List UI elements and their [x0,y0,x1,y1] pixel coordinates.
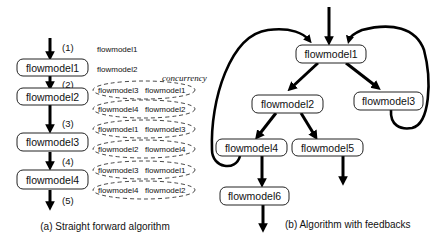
svg-text:flowmodel4: flowmodel4 [98,105,139,114]
step-label-1: (1) [62,42,74,53]
edge-2-4 [258,113,276,136]
svg-text:flowmodel1: flowmodel1 [26,62,79,74]
svg-text:flowmodel2: flowmodel2 [145,105,186,114]
box-a-flowmodel2: flowmodel2 [17,88,88,105]
svg-text:flowmodel3: flowmodel3 [98,166,139,175]
svg-text:flowmodel6: flowmodel6 [228,190,281,202]
edge-1-3 [346,63,377,87]
node-flowmodel4: flowmodel4 [216,139,287,156]
concurrent-pair-3: flowmodel1 flowmodel3 [93,120,195,138]
edge-1-2 [291,63,318,88]
svg-text:flowmodel1: flowmodel1 [304,48,357,60]
concurrent-pair-2: flowmodel4 flowmodel2 [93,100,195,118]
concurrent-pair-4: flowmodel2 flowmodel4 [93,140,195,158]
caption-b: (b) Algorithm with feedbacks [285,219,411,230]
box-a-flowmodel4: flowmodel4 [17,170,88,189]
node-flowmodel2: flowmodel2 [252,95,323,113]
concurrent-pair-6: flowmodel4 flowmodel2 [93,181,195,199]
svg-text:flowmodel4: flowmodel4 [98,186,139,195]
svg-text:flowmodel4: flowmodel4 [26,174,79,186]
node-flowmodel6: flowmodel6 [220,187,289,205]
svg-text:flowmodel2: flowmodel2 [98,145,139,154]
concurrency-label: concurrency [162,73,207,83]
svg-text:flowmodel1: flowmodel1 [145,86,186,95]
svg-text:flowmodel3: flowmodel3 [145,125,186,134]
caption-a: (a) Straight forward algorithm [40,221,170,232]
concurrent-pair-1: flowmodel3 flowmodel1 [93,81,195,99]
node-flowmodel5: flowmodel5 [292,139,363,156]
svg-text:flowmodel1: flowmodel1 [145,166,186,175]
feedback-3-to-1 [349,27,428,129]
panel-a-straight-forward: (1) (2) (3) (4) (5) flowmodel1 flowmodel… [17,38,207,232]
svg-text:flowmodel5: flowmodel5 [301,142,354,154]
box-a-flowmodel3: flowmodel3 [17,133,88,151]
concurrent-pair-5: flowmodel3 flowmodel1 [93,161,195,179]
node-flowmodel1: flowmodel1 [296,45,366,63]
svg-text:flowmodel4: flowmodel4 [145,145,186,154]
edge-2-5 [301,113,315,136]
node-flowmodel3: flowmodel3 [354,92,423,110]
svg-text:flowmodel2: flowmodel2 [261,98,314,110]
step2-item: flowmodel2 [97,65,138,74]
svg-text:flowmodel3: flowmodel3 [98,86,139,95]
panel-b-feedbacks: flowmodel1 flowmodel2 flowmodel3 flowmod… [212,7,429,230]
step-label-3: (3) [62,118,74,129]
step-label-4: (4) [62,156,74,167]
svg-text:flowmodel3: flowmodel3 [362,95,415,107]
svg-text:flowmodel2: flowmodel2 [26,91,79,103]
box-a-flowmodel1: flowmodel1 [17,59,88,76]
diagram-canvas: (1) (2) (3) (4) (5) flowmodel1 flowmodel… [0,0,440,244]
svg-text:flowmodel3: flowmodel3 [26,136,79,148]
svg-text:flowmodel2: flowmodel2 [145,186,186,195]
step1-item: flowmodel1 [97,45,138,54]
svg-text:flowmodel1: flowmodel1 [98,125,139,134]
step-label-5: (5) [62,195,74,206]
svg-text:flowmodel4: flowmodel4 [225,142,278,154]
